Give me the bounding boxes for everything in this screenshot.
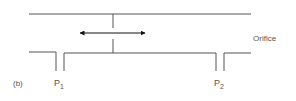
bottom-wall-middle	[64, 53, 216, 71]
p2-label: P2	[214, 78, 224, 90]
p2-sub: 2	[220, 83, 224, 90]
bottom-wall-right	[224, 53, 251, 71]
orifice-diagram: Orifice (b) P1 P2	[0, 0, 296, 101]
panel-label: (b)	[13, 79, 23, 88]
p1-sub: 1	[60, 83, 64, 90]
p1-label: P1	[54, 78, 64, 90]
orifice-label: Orifice	[253, 34, 277, 43]
bottom-wall-left	[29, 52, 56, 71]
